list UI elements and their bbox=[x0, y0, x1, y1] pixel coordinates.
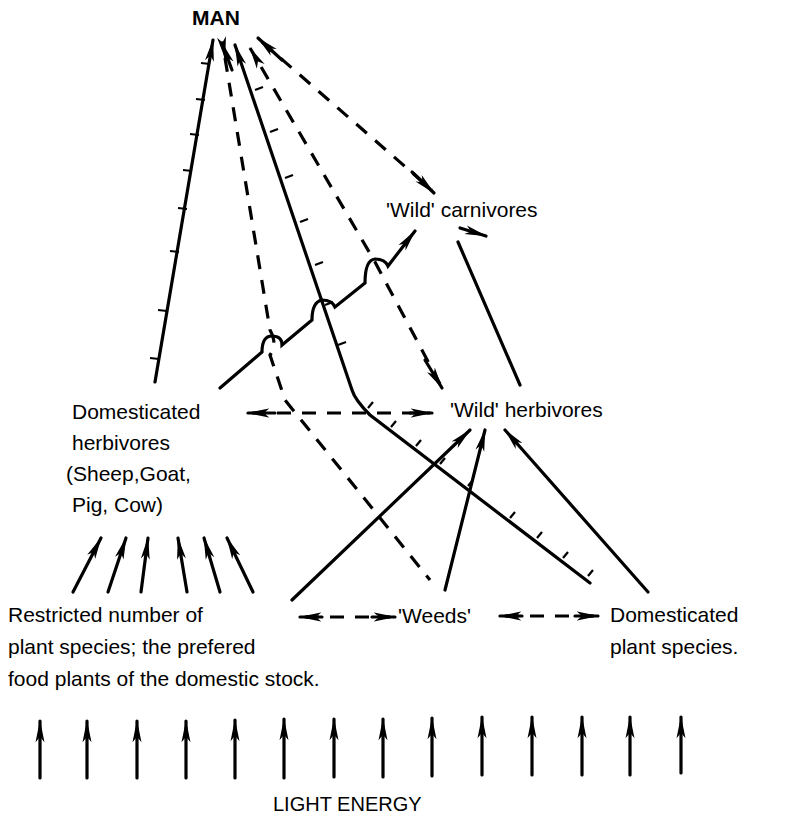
edge-domestic-herbivores-to-man bbox=[150, 40, 213, 382]
node-weeds: 'Weeds' bbox=[398, 602, 471, 630]
node-wild-herbivores: 'Wild' herbivores bbox=[450, 396, 603, 424]
edge-domestic-plants-to-man bbox=[235, 45, 593, 583]
node-domesticated-herbivores: Domesticated herbivores (Sheep,Goat, Pig… bbox=[66, 398, 194, 510]
edge-domestic-plants-to-wild-herbivores bbox=[505, 430, 648, 592]
arrows-restricted-to-domestic-herbivores bbox=[73, 538, 253, 592]
edge-wild-herbivores-to-wild-carnivores bbox=[458, 242, 520, 385]
edge-man-wild-carnivores bbox=[262, 42, 432, 190]
node-restricted-plants: Restricted number of plant species; the … bbox=[8, 601, 320, 685]
node-light-energy: LIGHT ENERGY bbox=[273, 790, 422, 818]
node-domesticated-plants: Domesticated plant species. bbox=[610, 601, 738, 657]
edge-weeds-to-wild-herbivores bbox=[445, 430, 485, 590]
node-wild-carnivores: 'Wild' carnivores bbox=[386, 196, 538, 224]
edge-domestic-herbivores-to-wild-carnivores bbox=[220, 231, 415, 388]
node-man: MAN bbox=[192, 4, 240, 32]
arrows-light-energy bbox=[40, 717, 681, 778]
edge-restricted-to-wild-herbivores bbox=[292, 430, 470, 600]
arrow-to-wild-herbivores bbox=[425, 360, 442, 388]
